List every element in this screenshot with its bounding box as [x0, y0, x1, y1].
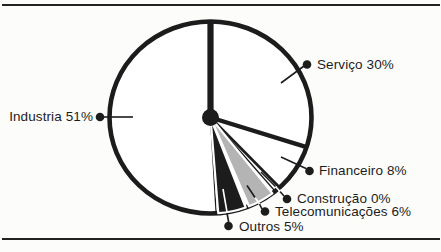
callout-label-telecomunicacoes: Telecomunicações 6%	[275, 204, 411, 219]
bottom-rule	[2, 238, 440, 240]
callout-bullet-industria	[96, 113, 105, 122]
callout-bullet-financeiro	[305, 167, 314, 176]
callout-line	[260, 204, 263, 209]
callout-line	[280, 192, 284, 197]
callout-label-industria: Industria 51%	[9, 109, 93, 124]
chart-panel: Serviço 30% Industria 51% Financeiro 8% …	[0, 0, 441, 252]
callout-bullet-servico	[303, 60, 312, 69]
pie-center-dot	[202, 109, 219, 126]
callout-bullet-telecomunicacoes	[261, 207, 270, 216]
callout-label-financeiro: Financeiro 8%	[319, 163, 407, 178]
callout-bullet-outros	[224, 222, 233, 231]
callout-label-outros: Outros 5%	[239, 219, 304, 234]
callout-bullet-construcao	[283, 195, 292, 204]
callout-label-servico: Serviço 30%	[317, 57, 394, 72]
